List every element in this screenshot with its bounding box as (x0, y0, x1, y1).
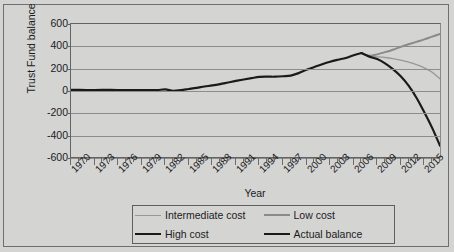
gridline (71, 46, 440, 47)
x-tick-minor (313, 158, 314, 162)
x-tick-minor (439, 158, 440, 162)
x-axis-title: Year (70, 187, 440, 199)
x-tick-minor (227, 158, 228, 162)
x-tick-minor (196, 158, 197, 162)
y-tick-mark (68, 46, 71, 47)
legend-entry-high-cost[interactable]: High cost (135, 228, 264, 240)
y-tick-mark (68, 91, 71, 92)
legend-line-swatch (264, 233, 290, 235)
y-tick-mark (68, 69, 71, 70)
chart-figure: Trust Fund balance ($ billions) 60040020… (0, 0, 454, 252)
x-tick-minor (203, 158, 204, 162)
legend-line-swatch (264, 214, 290, 216)
legend-label: Low cost (294, 209, 335, 221)
x-tick-minor (360, 158, 361, 162)
x-tick-minor (243, 158, 244, 162)
x-tick-minor (219, 158, 220, 162)
series-line-low-cost (361, 34, 440, 56)
x-tick-minor (415, 158, 416, 162)
x-tick-minor (345, 158, 346, 162)
gridline (71, 91, 440, 92)
x-tick-minor (78, 158, 79, 162)
x-tick-minor (180, 158, 181, 162)
x-tick-minor (368, 158, 369, 162)
legend-entry-low-cost[interactable]: Low cost (264, 209, 393, 221)
x-tick-minor (86, 158, 87, 162)
x-tick-minor (266, 158, 267, 162)
x-tick-minor (149, 158, 150, 162)
x-tick-minor (133, 158, 134, 162)
x-tick-minor (125, 158, 126, 162)
figure-border: Trust Fund balance ($ billions) 60040020… (3, 4, 449, 247)
plot-area: 6004002000-200-400-600 (70, 23, 441, 158)
y-tick-label: 200 (22, 62, 68, 74)
chart-legend: Intermediate costLow costHigh costActual… (132, 205, 395, 244)
y-tick-label: 400 (22, 39, 68, 51)
y-tick-mark (68, 136, 71, 137)
x-tick-minor (251, 158, 252, 162)
y-tick-mark (68, 113, 71, 114)
x-tick-minor (431, 158, 432, 162)
x-tick-minor (274, 158, 275, 162)
legend-entry-intermediate-cost[interactable]: Intermediate cost (135, 209, 264, 221)
legend-line-swatch (135, 233, 161, 235)
legend-entry-actual-balance[interactable]: Actual balance (264, 228, 393, 240)
x-tick-minor (337, 158, 338, 162)
y-tick-label: -600 (22, 151, 68, 163)
y-tick-label: -400 (22, 129, 68, 141)
x-tick-minor (172, 158, 173, 162)
legend-label: Intermediate cost (165, 209, 246, 221)
gridline (71, 69, 440, 70)
x-tick-minor (298, 158, 299, 162)
x-tick-minor (156, 158, 157, 162)
gridline (71, 136, 440, 137)
x-tick-minor (290, 158, 291, 162)
y-tick-label: 600 (22, 17, 68, 29)
y-tick-label: 0 (22, 84, 68, 96)
x-axis: 1970197319761979198219851988199119941997… (70, 157, 440, 158)
series-line-high-cost (361, 53, 440, 146)
x-tick-minor (109, 158, 110, 162)
x-tick-minor (384, 158, 385, 162)
x-tick-minor (408, 158, 409, 162)
series-line-actual-balance (71, 53, 361, 91)
y-tick-mark (68, 24, 71, 25)
x-tick-minor (101, 158, 102, 162)
legend-label: High cost (165, 228, 209, 240)
gridline (71, 113, 440, 114)
legend-label: Actual balance (294, 228, 363, 240)
legend-line-swatch (135, 215, 161, 216)
x-tick-minor (392, 158, 393, 162)
y-tick-label: -200 (22, 106, 68, 118)
x-tick-minor (321, 158, 322, 162)
